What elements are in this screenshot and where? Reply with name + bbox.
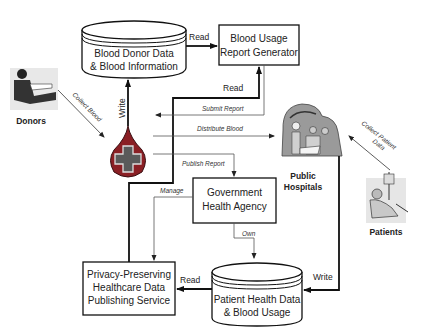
privacy-preserving-publishing-service-box: Privacy-Preserving Healthcare Data Publi… bbox=[83, 262, 175, 315]
gov-agency-line2: Health Agency bbox=[202, 201, 267, 212]
distribute-blood-label: Distribute Blood bbox=[197, 125, 243, 132]
government-health-agency-box: Government Health Agency bbox=[193, 178, 276, 223]
own-label: Own bbox=[242, 230, 256, 237]
read-report-label: Read bbox=[223, 83, 244, 93]
donors-figure: Donors bbox=[10, 68, 58, 126]
patient-health-database: Patient Health Data & Blood Usage bbox=[212, 263, 302, 326]
report-generator-box: Blood Usage Report Generator bbox=[219, 25, 299, 65]
diagram-canvas: Blood Donor Data & Blood Information Blo… bbox=[0, 0, 422, 332]
donor-db-line2: & Blood Information bbox=[90, 61, 178, 72]
patient-db-line1: Patient Health Data bbox=[214, 294, 301, 305]
report-gen-line1: Blood Usage bbox=[230, 33, 288, 44]
gov-agency-line1: Government bbox=[207, 187, 262, 198]
publish-report-label: Publish Report bbox=[182, 160, 226, 168]
report-gen-line2: Report Generator bbox=[220, 47, 298, 58]
collect-blood-label: Collect Blood bbox=[71, 91, 103, 123]
write-donor-db-label: Write bbox=[117, 98, 127, 118]
hospitals-line1: Public bbox=[290, 171, 316, 181]
ppdp-line1: Privacy-Preserving bbox=[87, 269, 171, 280]
ppdp-line2: Healthcare Data bbox=[93, 282, 166, 293]
hospitals-line2: Hospitals bbox=[284, 182, 323, 192]
patients-figure: Patients bbox=[366, 172, 408, 237]
patient-db-line2: & Blood Usage bbox=[224, 307, 291, 318]
read-patient-db-label: Read bbox=[180, 275, 201, 285]
blood-donor-database: Blood Donor Data & Blood Information bbox=[82, 21, 186, 78]
ppdp-line3: Publishing Service bbox=[88, 295, 171, 306]
manage-arrow bbox=[154, 197, 193, 260]
donor-db-line1: Blood Donor Data bbox=[94, 48, 174, 59]
write-patient-db-label: Write bbox=[313, 272, 333, 282]
public-hospitals-figure: Public Hospitals bbox=[282, 104, 342, 192]
patients-label: Patients bbox=[369, 227, 402, 237]
submit-report-label: Submit Report bbox=[202, 105, 245, 113]
manage-label: Manage bbox=[160, 187, 184, 195]
own-arrow bbox=[234, 223, 254, 258]
read-donor-db-label: Read bbox=[189, 32, 210, 42]
donors-label: Donors bbox=[16, 116, 46, 126]
blood-bank-drop-icon bbox=[111, 126, 146, 177]
